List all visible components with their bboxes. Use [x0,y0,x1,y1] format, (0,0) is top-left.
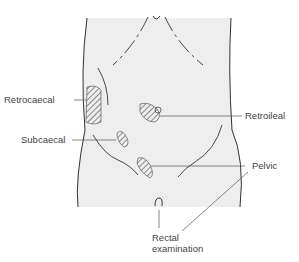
label-rectal-line1: Rectal [152,232,179,243]
label-subcaecal: Subcaecal [21,134,65,145]
label-pelvic: Pelvic [252,160,277,171]
label-retroileal: Retroileal [245,110,285,121]
label-rectal-line2: examination [152,243,203,254]
appendix-positions-diagram: Retrocaecal Retroileal Subcaecal Pelvic … [0,0,299,262]
label-retrocaecal: Retrocaecal [4,94,55,105]
torso-illustration [0,0,299,262]
retrocaecal-region [86,86,101,124]
